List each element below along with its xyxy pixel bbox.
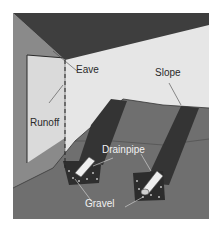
drainage-illustration — [13, 13, 209, 219]
label-gravel: Gravel — [85, 198, 114, 209]
label-slope: Slope — [155, 67, 181, 78]
label-eave: Eave — [76, 64, 99, 75]
label-runoff: Runoff — [30, 117, 59, 128]
diagram-frame — [13, 13, 209, 219]
label-drainpipe: Drainpipe — [102, 144, 145, 155]
